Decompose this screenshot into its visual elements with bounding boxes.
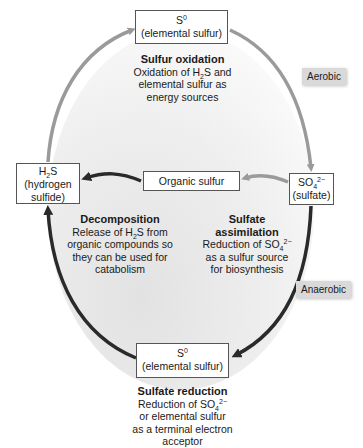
process-sulfate-assimilation: Sulfate assimilation Reduction of SO42− … xyxy=(196,213,298,276)
superscript: 2− xyxy=(283,238,291,245)
text: Reduction of SO xyxy=(203,238,280,250)
text: organic compounds so xyxy=(60,238,180,251)
text: acceptor xyxy=(120,435,245,448)
node-name: (hydrogen xyxy=(17,178,79,191)
process-decomposition: Decomposition Release of H2S from organi… xyxy=(60,213,180,276)
process-title: assimilation xyxy=(196,226,298,239)
formula: S xyxy=(50,165,57,177)
process-sulfate-reduction: Sulfate reduction Reduction of SO42− or … xyxy=(120,385,245,448)
text: catabolism xyxy=(60,263,180,276)
superscript: 0 xyxy=(184,347,188,354)
anaerobic-label: Anaerobic xyxy=(296,281,351,298)
formula: S xyxy=(177,347,184,359)
text: energy sources xyxy=(120,91,245,104)
node-name: sulfide) xyxy=(17,191,79,204)
node-name: Organic sulfur xyxy=(159,175,224,187)
formula: S xyxy=(176,14,183,26)
process-title: Decomposition xyxy=(60,213,180,226)
node-name: (elemental sulfur) xyxy=(137,360,228,373)
text: elemental sulfur as xyxy=(120,78,245,91)
text: Reduction of SO xyxy=(138,398,215,410)
node-organic-sulfur: Organic sulfur xyxy=(143,171,240,191)
text: Oxidation of H xyxy=(134,66,201,78)
aerobic-label: Aerobic xyxy=(302,68,346,85)
text: as a sulfur source xyxy=(196,251,298,264)
node-name: (sulfate) xyxy=(290,189,333,202)
process-title: Sulfate xyxy=(196,213,298,226)
text: Release of H xyxy=(72,226,133,238)
text: or elemental sulfur xyxy=(120,410,245,423)
formula: SO xyxy=(298,176,313,188)
node-top-elemental-sulfur: S0 (elemental sulfur) xyxy=(135,10,228,44)
process-title: Sulfur oxidation xyxy=(120,53,245,66)
superscript: 2− xyxy=(317,176,325,183)
text: S and xyxy=(204,66,231,78)
node-name: (elemental sulfur) xyxy=(136,27,227,40)
node-hydrogen-sulfide: H2S (hydrogen sulfide) xyxy=(16,163,80,204)
text: for biosynthesis xyxy=(196,263,298,276)
process-title: Sulfate reduction xyxy=(120,385,245,398)
node-bottom-elemental-sulfur: S0 (elemental sulfur) xyxy=(136,343,229,378)
process-sulfur-oxidation: Sulfur oxidation Oxidation of H2S and el… xyxy=(120,53,245,103)
superscript: 0 xyxy=(183,14,187,21)
node-sulfate: SO42− (sulfate) xyxy=(289,173,334,205)
text: S from xyxy=(137,226,168,238)
text: they can be used for xyxy=(60,251,180,264)
superscript: 2− xyxy=(219,397,227,404)
text: as a terminal electron xyxy=(120,423,245,436)
